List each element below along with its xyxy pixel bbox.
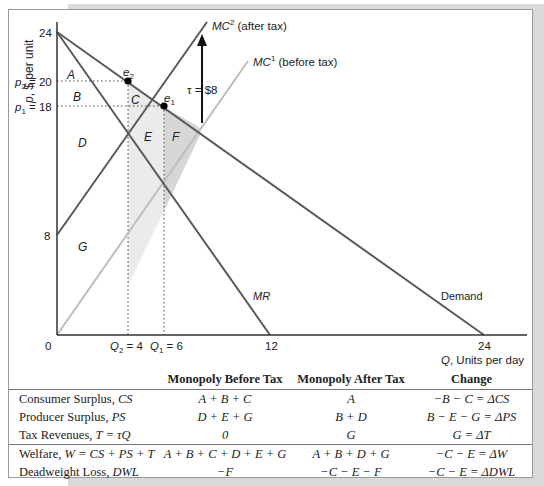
row-label: Producer Surplus, PS	[9, 408, 159, 426]
cell-after: B + D	[291, 408, 411, 426]
y-tick-24: 24	[39, 27, 52, 39]
demand-curve	[57, 32, 484, 335]
cell-before: D + E + G	[159, 408, 291, 426]
cell-change: −C − E = ΔW	[411, 445, 532, 464]
table-row: Tax Revenues, T = τQ 0 G G = ΔT	[9, 426, 532, 445]
table-header-row: Monopoly Before Tax Monopoly After Tax C…	[9, 366, 532, 390]
y-tick-p1: p1 = 18	[14, 101, 52, 116]
tax-label: τ = $8	[187, 84, 217, 96]
table-row: Deadweight Loss, DWL −F −C − E − F −C − …	[9, 463, 532, 481]
cell-change: G = ΔT	[411, 426, 532, 445]
x-tick-q2: Q2 = 4	[110, 340, 144, 355]
mc2-label: MC2 (after tax)	[212, 18, 287, 32]
region-g-label: G	[78, 240, 87, 254]
cell-before: −F	[159, 463, 291, 481]
cell-after: A	[291, 390, 411, 409]
table-row: Welfare, W = CS + PS + T A + B + C + D +…	[9, 445, 532, 464]
region-d-label: D	[78, 136, 87, 150]
region-e-label: E	[144, 130, 153, 144]
row-label: Deadweight Loss, DWL	[9, 463, 159, 481]
x-axis-label: Q, Units per day	[441, 354, 524, 366]
cell-after: G	[291, 426, 411, 445]
cell-before: A + B + C + D + E + G	[159, 445, 291, 464]
header-blank	[9, 366, 159, 390]
header-change: Change	[411, 366, 532, 390]
demand-label: Demand	[441, 290, 483, 302]
mr-label: MR	[253, 290, 270, 302]
header-after-tax: Monopoly After Tax	[291, 366, 411, 390]
x-tick-24: 24	[478, 340, 491, 352]
table-row: Consumer Surplus, CS A + B + C A −B − C …	[9, 390, 532, 409]
y-tick-8: 8	[44, 230, 50, 242]
x-tick-q1: Q1 = 6	[150, 340, 183, 355]
origin-label: 0	[45, 340, 51, 352]
row-label: Welfare, W = CS + PS + T	[9, 445, 159, 464]
row-label: Tax Revenues, T = τQ	[9, 426, 159, 445]
cell-change: B − E − G = ΔPS	[411, 408, 532, 426]
cell-change: −C − E = ΔDWL	[411, 463, 532, 481]
x-tick-12: 12	[265, 340, 278, 352]
e2-label: e2	[123, 66, 134, 81]
y-axis-label: p, $ per unit	[22, 39, 36, 104]
welfare-summary-table: Monopoly Before Tax Monopoly After Tax C…	[9, 366, 532, 481]
region-f-label: F	[172, 130, 180, 144]
cell-before: A + B + C	[159, 390, 291, 409]
region-b-label: B	[73, 90, 81, 104]
region-f-shading	[164, 107, 201, 211]
mc1-label: MC1 (before tax)	[253, 54, 338, 68]
cell-after: −C − E − F	[291, 463, 411, 481]
cell-change: −B − C = ΔCS	[411, 390, 532, 409]
region-a-label: A	[66, 68, 75, 82]
header-before-tax: Monopoly Before Tax	[159, 366, 291, 390]
table-row: Producer Surplus, PS D + E + G B + D B −…	[9, 408, 532, 426]
cell-before: 0	[159, 426, 291, 445]
row-label: Consumer Surplus, CS	[9, 390, 159, 409]
region-c-label: C	[131, 93, 140, 107]
cell-after: A + B + D + G	[291, 445, 411, 464]
